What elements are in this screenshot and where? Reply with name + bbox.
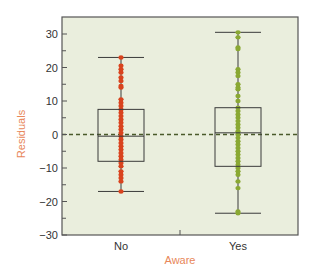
data-point: [118, 179, 123, 183]
data-point: [235, 87, 240, 91]
plot-background: [62, 17, 298, 235]
data-point: [235, 74, 240, 78]
data-point: [118, 164, 123, 168]
y-axis-title: Residuals: [15, 109, 27, 158]
data-point: [235, 209, 240, 213]
data-point: [235, 179, 240, 183]
data-point: [235, 47, 240, 51]
data-point: [235, 30, 240, 34]
x-axis-title: Aware: [165, 254, 196, 266]
data-point: [118, 70, 123, 74]
y-tick-label: 0: [52, 129, 58, 141]
data-point: [118, 79, 123, 83]
y-tick-label: −10: [39, 162, 58, 174]
data-point: [118, 55, 123, 59]
data-point: [235, 99, 240, 103]
data-point: [235, 186, 240, 190]
x-tick-label-no: No: [114, 240, 128, 252]
y-tick-label: 20: [46, 62, 58, 74]
data-point: [235, 94, 240, 98]
y-tick-label: −20: [39, 196, 58, 208]
y-tick-label: 30: [46, 28, 58, 40]
x-tick-label-yes: Yes: [229, 240, 247, 252]
y-tick-label: −30: [39, 229, 58, 241]
y-tick-label: 10: [46, 95, 58, 107]
data-point: [235, 173, 240, 177]
data-point: [118, 85, 123, 89]
data-point: [118, 189, 123, 193]
box-plot-chart: 3020100−10−20−30 NoYes Residuals Aware: [0, 0, 313, 278]
data-point: [235, 35, 240, 39]
